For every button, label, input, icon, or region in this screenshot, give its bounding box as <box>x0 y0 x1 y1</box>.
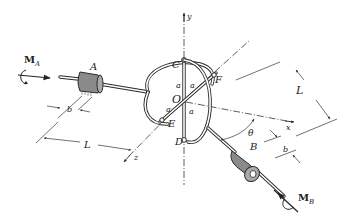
segment-a-label-2: a <box>190 81 195 90</box>
x-axis <box>186 102 292 122</box>
dim-l-left-label: L <box>83 139 91 150</box>
moment-a-subscript: A <box>34 60 40 68</box>
moment-b-vector <box>274 190 298 212</box>
axis-y-label: y <box>186 12 192 21</box>
axis-z-label: z <box>133 153 139 162</box>
dim-b-left-label: b <box>67 105 72 114</box>
theta-label: θ <box>248 128 254 138</box>
point-d-label: D <box>174 136 183 147</box>
shaft-b <box>184 60 284 196</box>
point-f-label: F <box>214 74 223 85</box>
bearing-b-label: B <box>249 141 257 152</box>
bearing-a-label: A <box>89 61 97 72</box>
moment-a-label: M <box>24 54 35 65</box>
bearing-b <box>231 151 263 185</box>
dim-b-right-label: b <box>283 145 288 154</box>
segment-a-label-3: a <box>166 105 171 114</box>
axis-x-label: x <box>286 123 291 132</box>
segment-a-label-1: a <box>176 81 181 90</box>
moment-b-subscript: B <box>308 198 314 206</box>
universal-joint-diagram: M A M B A B C D E F O a a a a y x z θ b … <box>0 0 349 224</box>
moment-b-label: M <box>298 192 309 203</box>
origin-label: O <box>172 93 181 106</box>
segment-a-label-4: a <box>189 107 194 116</box>
point-c-label: C <box>172 59 180 70</box>
dim-l-right-label: L <box>295 84 303 97</box>
bearing-a <box>78 72 103 96</box>
point-e-label: E <box>167 118 176 129</box>
moment-a-vector <box>18 70 50 84</box>
